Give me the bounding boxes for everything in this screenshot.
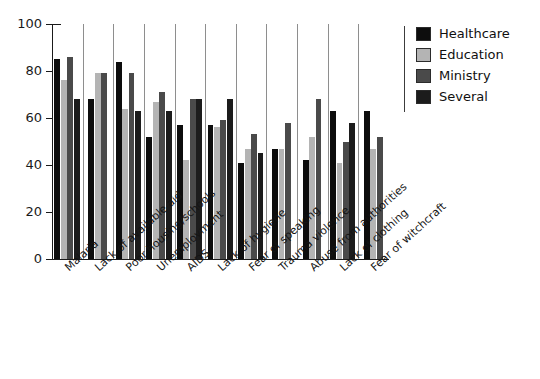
bar-group [83,24,114,259]
bar [177,125,183,259]
y-axis-tick-label: 100 [2,17,42,30]
bar [251,134,257,259]
bar [364,111,370,259]
bar [190,99,196,259]
bar-group [266,24,297,259]
bar [67,57,73,259]
y-axis-tick [46,259,52,260]
y-axis-tick-label: 0 [2,252,42,265]
bar-group [144,24,175,259]
bar [159,92,165,259]
bar [166,111,172,259]
bar [285,123,291,259]
bar [303,160,309,259]
bar-group [52,24,83,259]
bar-group [297,24,328,259]
bar [122,109,128,259]
bar [330,111,336,259]
legend-item-label: Education [439,47,504,63]
bar [214,127,220,259]
bar [153,102,159,259]
bar [101,73,107,259]
bar-group [236,24,267,259]
bar-chart: 020406080100 MalariaLack of available ai… [0,0,540,379]
bar [279,149,285,259]
bar [88,99,94,259]
bar [343,142,349,260]
bar-group [358,24,389,259]
legend-item-label: Ministry [439,68,491,84]
legend-divider [404,26,405,112]
legend-color-swatch [416,69,431,83]
x-axis-line [52,259,389,260]
bar [349,123,355,259]
legend-color-swatch [416,27,431,41]
legend-color-swatch [416,90,431,104]
bar [183,160,189,259]
legend-item-label: Healthcare [439,26,510,42]
y-axis-tick-label: 60 [2,111,42,124]
y-axis-tick-label: 40 [2,158,42,171]
bar [245,149,251,259]
bar [370,149,376,259]
bar [272,149,278,259]
bar [227,99,233,259]
bar [54,59,60,259]
plot-area [52,24,389,259]
bar [337,163,343,259]
bar [129,73,135,259]
bar [74,99,80,259]
bar [316,99,322,259]
bar-group [205,24,236,259]
legend-item-label: Several [439,89,488,105]
bar [61,80,67,259]
bar-group [175,24,206,259]
y-axis-tick-label: 80 [2,64,42,77]
bar [135,111,141,259]
y-axis-tick-label: 20 [2,205,42,218]
legend-color-swatch [416,48,431,62]
bar [208,125,214,259]
bar-group [328,24,359,259]
bar [309,137,315,259]
bar [116,62,122,259]
bar-group [113,24,144,259]
bar [196,99,202,259]
bar [258,153,264,259]
bar [146,137,152,259]
legend: HealthcareEducationMinistrySeveral [404,26,536,116]
bar [220,120,226,259]
bar [95,73,101,259]
bar [377,137,383,259]
bar [238,163,244,259]
